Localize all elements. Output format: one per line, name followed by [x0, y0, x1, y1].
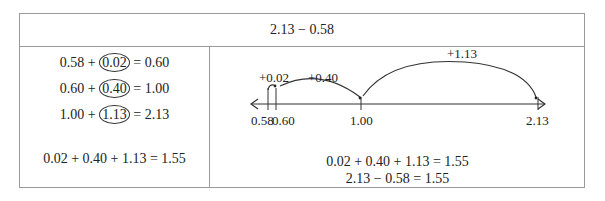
arrowhead-dot [274, 85, 277, 88]
circled-jump: 0.40 [99, 79, 130, 98]
subtraction-table: 2.13 − 0.58 0.58 + 0.02 = 0.60 0.60 + 0.… [19, 13, 585, 188]
jump-label-3: +1.13 [447, 47, 477, 61]
circled-jump: 1.13 [99, 105, 130, 124]
jump-label-1: +0.02 [259, 70, 289, 85]
step-equation-3: 1.00 + 1.13 = 2.13 [20, 105, 209, 124]
tick-label-0-58: 0.58 [251, 113, 274, 128]
number-line-diagram: +0.02 +0.40 +1.13 0.58 0.60 1.00 2.13 [210, 47, 585, 147]
step-equation-2: 0.60 + 0.40 = 1.00 [20, 79, 209, 98]
jump-arc-3 [363, 61, 536, 97]
difference-equation: 2.13 − 0.58 = 1.55 [210, 171, 585, 187]
right-total-equation: 0.02 + 0.40 + 1.13 = 1.55 [210, 154, 585, 170]
adding-on-panel: 0.58 + 0.02 = 0.60 0.60 + 0.40 = 1.00 1.… [20, 47, 210, 188]
jump-arc-1 [268, 85, 274, 90]
problem-expression: 2.13 − 0.58 [270, 22, 334, 38]
tick-label-0-60: 0.60 [272, 113, 295, 128]
arrowhead-dot [359, 97, 362, 100]
number-line-panel: +0.02 +0.40 +1.13 0.58 0.60 1.00 2.13 0.… [210, 47, 585, 188]
jump-label-2: +0.40 [308, 70, 338, 85]
tick-label-1-00: 1.00 [350, 113, 373, 128]
circled-jump: 0.02 [99, 53, 130, 72]
step-equation-1: 0.58 + 0.02 = 0.60 [20, 53, 209, 72]
arrowhead-dot [535, 97, 538, 100]
problem-header: 2.13 − 0.58 [20, 14, 584, 47]
left-total-equation: 0.02 + 0.40 + 1.13 = 1.55 [20, 151, 209, 167]
tick-label-2-13: 2.13 [526, 113, 549, 128]
